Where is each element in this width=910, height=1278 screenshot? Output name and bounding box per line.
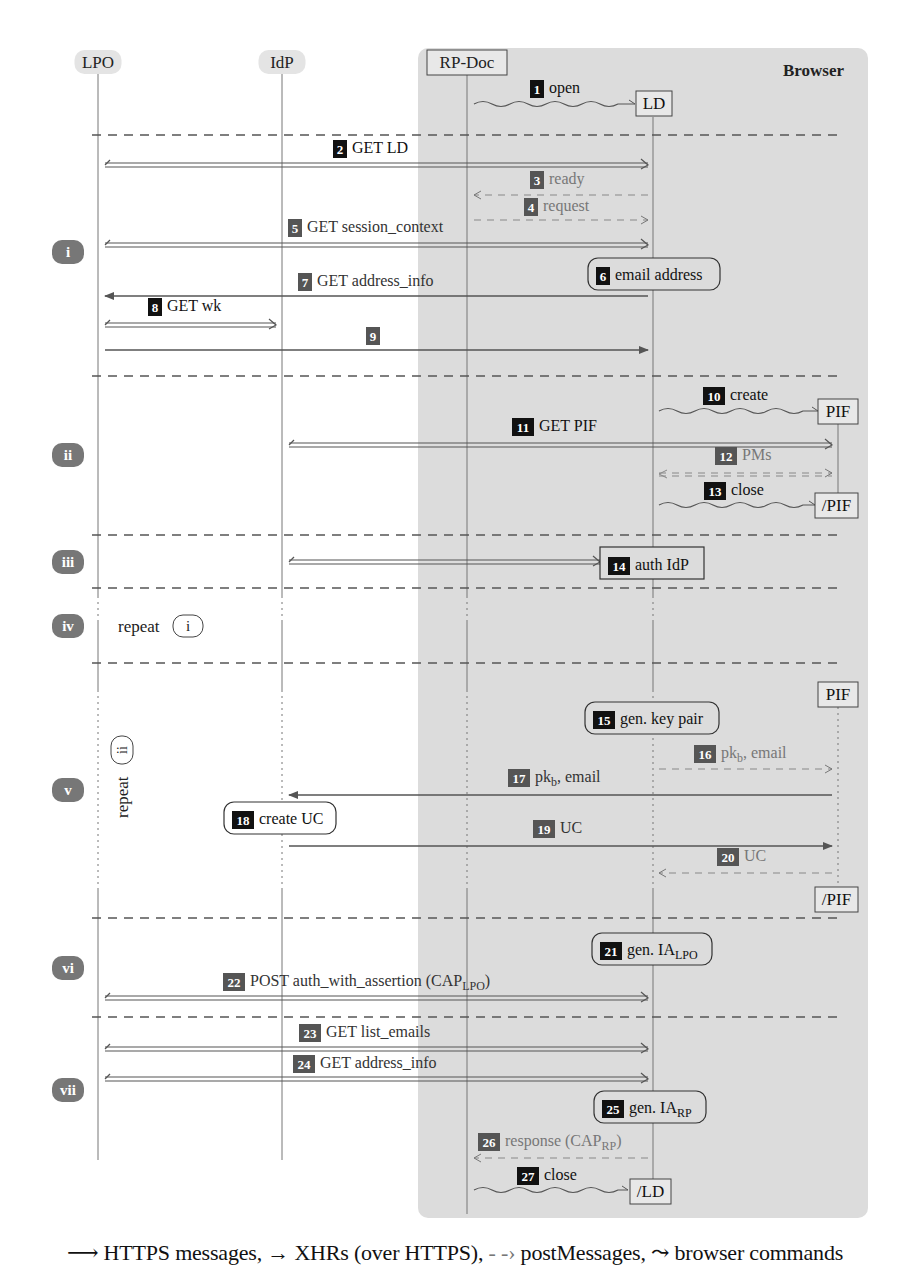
- step-number: 19: [538, 822, 552, 837]
- section-badge-vii: vii: [52, 1078, 84, 1102]
- frame-box-pif: PIF: [818, 399, 858, 424]
- section-badge-vi: vi: [52, 956, 84, 980]
- step-number: 16: [699, 747, 713, 762]
- legend-xhr: XHRs (over HTTPS),: [294, 1240, 483, 1265]
- legend-command: browser commands: [675, 1240, 843, 1265]
- repeat-label: repeat: [113, 776, 132, 818]
- step-number: 17: [513, 771, 527, 786]
- step-number: 8: [152, 300, 159, 315]
- legend-post-icon: - -›: [489, 1240, 516, 1265]
- message-label: UC: [744, 847, 766, 864]
- section-badge-label: i: [66, 244, 70, 260]
- step-number: 5: [292, 221, 299, 236]
- legend: ⟶ HTTPS messages, → XHRs (over HTTPS), -…: [0, 1240, 910, 1266]
- message-label: GET PIF: [539, 417, 597, 434]
- step-number: 10: [708, 389, 721, 404]
- frame-box-close-pif: /PIF: [815, 887, 858, 912]
- section-badge-v: v: [52, 778, 84, 802]
- legend-https-icon: ⟶: [67, 1240, 98, 1265]
- message-label: GET LD: [352, 139, 408, 156]
- message-label: create UC: [259, 810, 323, 827]
- section-badge-label: iv: [62, 618, 74, 634]
- message-14-label: 14auth IdP: [608, 556, 689, 575]
- frame-label: PIF: [826, 685, 851, 704]
- legend-command-icon: ⤳: [651, 1240, 669, 1265]
- participant-label: LPO: [82, 53, 114, 72]
- step-number: 15: [598, 713, 612, 728]
- frame-label: /LD: [637, 1182, 664, 1201]
- participant-idp: IdP: [259, 50, 306, 74]
- message-label: close: [544, 1166, 577, 1183]
- message-label: email address: [615, 266, 703, 283]
- message-label: GET list_emails: [326, 1023, 430, 1040]
- section-badge-label: vi: [62, 960, 74, 976]
- message-label: GET address_info: [320, 1054, 437, 1071]
- message-label: gen. key pair: [620, 710, 704, 728]
- step-number: 23: [304, 1026, 318, 1041]
- repeat-i: repeati: [118, 615, 203, 637]
- message-label: UC: [560, 819, 582, 836]
- section-badge-label: v: [64, 782, 72, 798]
- step-number: 3: [534, 173, 541, 188]
- step-number: 25: [607, 1102, 621, 1117]
- frame-label: /PIF: [822, 496, 851, 515]
- section-badge-label: ii: [64, 447, 72, 463]
- message-label: create: [730, 386, 768, 403]
- legend-https: HTTPS messages,: [104, 1240, 262, 1265]
- participant-label: IdP: [270, 53, 294, 72]
- step-number: 11: [517, 420, 529, 435]
- step-number: 21: [605, 944, 618, 959]
- browser-region: [418, 48, 868, 1218]
- step-number: 9: [370, 329, 377, 344]
- message-label: GET wk: [167, 297, 221, 314]
- action-25: 25gen. IARP: [594, 1091, 706, 1123]
- participant-lpo: LPO: [75, 50, 122, 74]
- message-label: auth IdP: [635, 556, 689, 573]
- legend-xhr-icon: →: [267, 1240, 289, 1265]
- repeat-ref: i: [186, 618, 190, 634]
- step-number: 6: [600, 269, 607, 284]
- frame-box-close-ld: /LD: [630, 1179, 671, 1204]
- frame-label: /PIF: [822, 890, 851, 909]
- legend-post: postMessages,: [521, 1240, 646, 1265]
- action-15: 15gen. key pair: [585, 702, 719, 734]
- step-number: 24: [298, 1057, 312, 1072]
- step-number: 26: [483, 1135, 497, 1150]
- action-21: 21gen. IALPO: [592, 933, 712, 965]
- action-6: 6email address: [588, 258, 720, 290]
- message-label: GET session_context: [307, 218, 444, 235]
- frame-box-close-pif: /PIF: [815, 493, 858, 518]
- browser-label: Browser: [783, 61, 845, 80]
- repeat-ref: ii: [115, 746, 130, 754]
- step-number: 2: [337, 142, 344, 157]
- action-18: 18create UC: [224, 802, 336, 834]
- section-badge-iii: iii: [52, 550, 84, 574]
- frame-label: LD: [643, 94, 666, 113]
- sequence-diagram: BrowserLPOIdPRP-Dociiiiiiivvviviirepeati…: [0, 0, 910, 1278]
- participant-rpdoc: RP-Doc: [427, 50, 507, 75]
- step-number: 27: [522, 1169, 536, 1184]
- step-number: 7: [302, 275, 309, 290]
- message-label: open: [549, 79, 580, 97]
- repeat-label: repeat: [118, 617, 160, 636]
- step-number: 13: [709, 484, 723, 499]
- frame-label: PIF: [826, 402, 851, 421]
- step-number: 18: [237, 813, 251, 828]
- step-number: 12: [720, 449, 733, 464]
- step-number: 4: [528, 200, 535, 215]
- message-label: request: [543, 197, 590, 215]
- frame-box-pif: PIF: [818, 682, 858, 707]
- section-badge-iv: iv: [52, 614, 84, 638]
- message-label: close: [731, 481, 764, 498]
- step-number: 1: [534, 82, 541, 97]
- repeat-ii: repeatii: [111, 736, 133, 818]
- section-badge-label: iii: [62, 554, 75, 570]
- section-badge-label: vii: [60, 1082, 76, 1098]
- section-badge-i: i: [52, 240, 84, 264]
- step-number: 22: [228, 975, 241, 990]
- message-8: 8GET wk: [105, 297, 276, 329]
- section-badge-ii: ii: [52, 443, 84, 467]
- step-number: 14: [613, 559, 627, 574]
- message-label: PMs: [742, 446, 771, 463]
- participant-label: RP-Doc: [440, 53, 495, 72]
